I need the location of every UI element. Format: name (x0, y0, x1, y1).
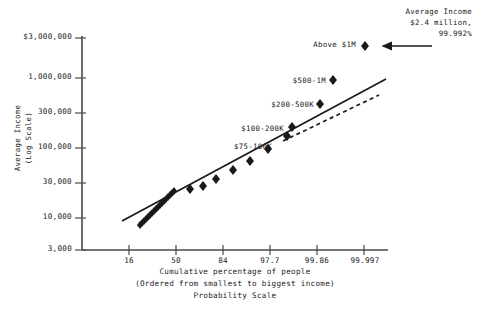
y-tick-label-300000: 300,000 (0, 108, 72, 117)
data-point (329, 75, 337, 85)
callout-line-1: Average Income (350, 8, 472, 17)
x-axis-subtitle: (Ordered from smallest to biggest income… (110, 280, 360, 289)
y-tick-label-3000: 3,000 (0, 245, 72, 254)
income-probability-plot: $3,000,000 1,000,000 300,000 100,000 30,… (0, 0, 477, 314)
y-tick-label-3000000: $3,000,000 (0, 33, 72, 42)
data-point (212, 174, 220, 184)
point-label-100-200k: $100-200K (192, 125, 284, 134)
y-tick-label-100000: 100,000 (0, 143, 72, 152)
point-label-200-500k: $200-500K (222, 101, 314, 110)
y-tick-label-10000: 10,000 (0, 213, 72, 222)
point-label-500k-1m: $500-1M (238, 77, 326, 86)
y-axis-ticks (75, 38, 86, 250)
x-tick-label-99-86: 99.86 (291, 257, 343, 266)
x-tick-label-50: 50 (152, 257, 200, 266)
callout-line-3: 99.992% (350, 30, 472, 39)
y-axis-scale-note: (Log Scale) (25, 78, 34, 198)
x-tick-label-16: 16 (105, 257, 153, 266)
x-tick-label-99-997: 99.997 (337, 257, 393, 266)
y-axis-title: Average Income (14, 78, 23, 198)
point-label-75-100k: $75-100K (180, 143, 272, 152)
data-point (229, 165, 237, 175)
data-point (246, 156, 254, 166)
data-point (316, 99, 324, 109)
y-tick-label-1000000: 1,000,000 (0, 73, 72, 82)
x-axis-scale-note: Probability Scale (110, 292, 360, 301)
above-1m-marker (361, 41, 369, 51)
x-tick-label-97-7: 97.7 (246, 257, 294, 266)
above-1m-label: Above $1M (288, 41, 356, 50)
y-tick-label-30000: 30,000 (0, 178, 72, 187)
x-tick-label-84: 84 (199, 257, 247, 266)
x-axis-title: Cumulative percentage of people (110, 268, 360, 277)
data-point (199, 181, 207, 191)
callout-line-2: $2.4 million, (350, 19, 472, 28)
data-point-cluster (137, 187, 177, 229)
data-points (186, 75, 337, 194)
